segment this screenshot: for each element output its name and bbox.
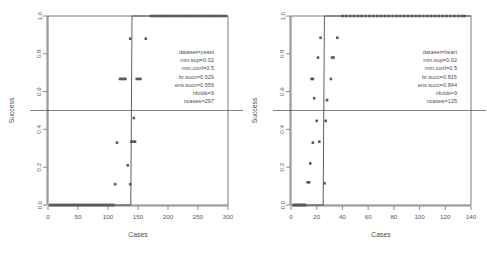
data-point bbox=[453, 15, 456, 18]
data-point bbox=[407, 15, 410, 18]
x-tick-label: 140 bbox=[466, 213, 477, 220]
x-tick-label: 20 bbox=[313, 213, 320, 220]
x-tick-label: 0 bbox=[289, 213, 293, 220]
data-point bbox=[323, 182, 326, 185]
y-tick-label: 0.4 bbox=[279, 125, 286, 134]
data-point bbox=[191, 15, 194, 18]
y-tick-label: 0.0 bbox=[279, 200, 286, 209]
y-tick-label: 0.8 bbox=[279, 49, 286, 58]
data-point bbox=[134, 140, 137, 143]
plot-annotation-line: dataset=yeast bbox=[179, 49, 214, 55]
plot-annotation-line: ens.succ=0.844 bbox=[418, 82, 457, 88]
data-point bbox=[430, 15, 433, 18]
data-point bbox=[145, 37, 148, 40]
data-point bbox=[399, 15, 402, 18]
x-tick-label: 250 bbox=[193, 213, 204, 220]
data-point bbox=[208, 15, 211, 18]
data-point bbox=[169, 15, 172, 18]
y-tick-label: 0.8 bbox=[36, 49, 43, 58]
data-point bbox=[418, 15, 421, 18]
data-point bbox=[319, 36, 322, 39]
plot-annotation-line: min.conf=0.5 bbox=[425, 65, 457, 71]
data-point bbox=[364, 15, 367, 18]
y-tick-label: 0.4 bbox=[36, 125, 43, 134]
data-point bbox=[384, 15, 387, 18]
plot-panel-left: 0501001502002503000.00.20.40.60.81.0Case… bbox=[0, 0, 243, 254]
plot-canvas-right: 0204060801001201400.00.20.40.60.81.0Case… bbox=[243, 0, 486, 254]
data-point bbox=[434, 15, 437, 18]
data-point bbox=[422, 15, 425, 18]
x-tick-label: 40 bbox=[339, 213, 346, 220]
data-point bbox=[308, 181, 311, 184]
data-point bbox=[360, 15, 363, 18]
data-point bbox=[426, 15, 429, 18]
data-point bbox=[133, 117, 136, 120]
data-point bbox=[318, 140, 321, 143]
data-point bbox=[317, 56, 320, 59]
data-point bbox=[222, 15, 225, 18]
data-point bbox=[184, 15, 187, 18]
data-point bbox=[124, 78, 127, 81]
data-point bbox=[349, 15, 352, 18]
data-point bbox=[357, 15, 360, 18]
y-tick-label: 1.0 bbox=[36, 11, 43, 20]
x-tick-label: 200 bbox=[163, 213, 174, 220]
data-point bbox=[353, 15, 356, 18]
data-point bbox=[336, 36, 339, 39]
plot-canvas-left: 0501001502002503000.00.20.40.60.81.0Case… bbox=[0, 0, 243, 254]
data-point bbox=[457, 15, 460, 18]
plot-annotation-line: min.sup=0.02 bbox=[423, 57, 457, 63]
data-point bbox=[186, 15, 189, 18]
data-point bbox=[313, 97, 316, 100]
y-axis-title: Success bbox=[251, 97, 258, 123]
data-point bbox=[461, 15, 464, 18]
x-tick-label: 60 bbox=[365, 213, 372, 220]
data-point bbox=[403, 15, 406, 18]
data-point bbox=[395, 15, 398, 18]
data-point bbox=[205, 15, 208, 18]
data-point bbox=[167, 15, 170, 18]
x-axis-title: Cases bbox=[371, 231, 391, 238]
data-point bbox=[411, 15, 414, 18]
data-point bbox=[312, 141, 315, 144]
data-point bbox=[332, 56, 335, 59]
x-tick-label: 120 bbox=[440, 213, 451, 220]
data-point bbox=[463, 15, 466, 18]
data-point bbox=[127, 164, 130, 167]
x-tick-label: 100 bbox=[103, 213, 114, 220]
data-point bbox=[414, 15, 417, 18]
data-point bbox=[193, 15, 196, 18]
plot-annotation-line: br.succ=0.815 bbox=[422, 74, 457, 80]
x-axis-title: Cases bbox=[128, 231, 148, 238]
x-tick-label: 300 bbox=[223, 213, 234, 220]
data-point bbox=[116, 141, 119, 144]
data-point bbox=[309, 162, 312, 165]
data-point bbox=[129, 37, 132, 40]
data-point bbox=[196, 15, 199, 18]
plot-annotation-line: min.conf=0.5 bbox=[182, 65, 214, 71]
data-point bbox=[203, 15, 206, 18]
data-point bbox=[152, 15, 155, 18]
data-point bbox=[445, 15, 448, 18]
data-point bbox=[155, 15, 158, 18]
data-point bbox=[326, 99, 329, 102]
data-point bbox=[215, 15, 218, 18]
plot-annotation-line: ncases=135 bbox=[427, 98, 457, 104]
plot-annotation-line: br.succ=0.529 bbox=[179, 74, 214, 80]
y-tick-label: 1.0 bbox=[279, 11, 286, 20]
y-axis-title: Success bbox=[8, 97, 15, 123]
data-point bbox=[188, 15, 191, 18]
x-tick-label: 0 bbox=[46, 213, 50, 220]
data-point bbox=[174, 15, 177, 18]
y-tick-label: 0.0 bbox=[36, 200, 43, 209]
data-point bbox=[139, 78, 142, 81]
data-point bbox=[112, 204, 115, 207]
data-point bbox=[380, 15, 383, 18]
data-point bbox=[114, 183, 117, 186]
data-point bbox=[162, 15, 165, 18]
x-tick-label: 100 bbox=[414, 213, 425, 220]
data-point bbox=[160, 15, 163, 18]
data-point bbox=[438, 15, 441, 18]
data-point bbox=[200, 15, 203, 18]
y-tick-label: 0.6 bbox=[36, 87, 43, 96]
